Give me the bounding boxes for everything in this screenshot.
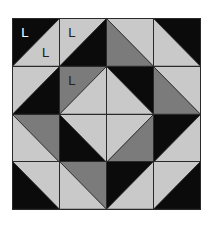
half-square-triangle [107, 67, 153, 114]
cell-letter-label: L [42, 46, 49, 59]
half-square-triangle [60, 67, 106, 114]
cell-letter-label: L [68, 26, 75, 39]
quilt-cell-r0-c3 [154, 19, 200, 66]
quilt-cell-r3-c3 [154, 162, 200, 209]
half-square-triangle [13, 67, 59, 114]
quilt-cell-r1-c1: L [60, 67, 106, 114]
quilt-cell-r2-c3 [154, 115, 200, 162]
quilt-cell-r0-c2 [107, 19, 153, 66]
half-square-triangle [154, 115, 200, 162]
quilt-grid: LLLL [12, 18, 201, 210]
quilt-cell-r2-c0 [13, 115, 59, 162]
half-square-triangle [13, 19, 59, 66]
quilt-cell-r1-c2 [107, 67, 153, 114]
quilt-cell-r3-c0 [13, 162, 59, 209]
cell-letter-label: L [68, 74, 75, 87]
quilt-cell-r1-c0 [13, 67, 59, 114]
cell-letter-label: L [21, 26, 28, 39]
quilt-cell-r3-c1 [60, 162, 106, 209]
quilt-cell-r2-c2 [107, 115, 153, 162]
half-square-triangle [13, 162, 59, 209]
half-square-triangle [107, 162, 153, 209]
quilt-cell-r3-c2 [107, 162, 153, 209]
quilt-cell-r2-c1 [60, 115, 106, 162]
half-square-triangle [154, 67, 200, 114]
quilt-cell-r0-c0: LL [13, 19, 59, 66]
quilt-cell-r0-c1: L [60, 19, 106, 66]
half-square-triangle [107, 19, 153, 66]
half-square-triangle [60, 19, 106, 66]
half-square-triangle [107, 115, 153, 162]
half-square-triangle [13, 115, 59, 162]
half-square-triangle [154, 162, 200, 209]
half-square-triangle [60, 162, 106, 209]
quilt-cell-r1-c3 [154, 67, 200, 114]
half-square-triangle [60, 115, 106, 162]
half-square-triangle [154, 19, 200, 66]
